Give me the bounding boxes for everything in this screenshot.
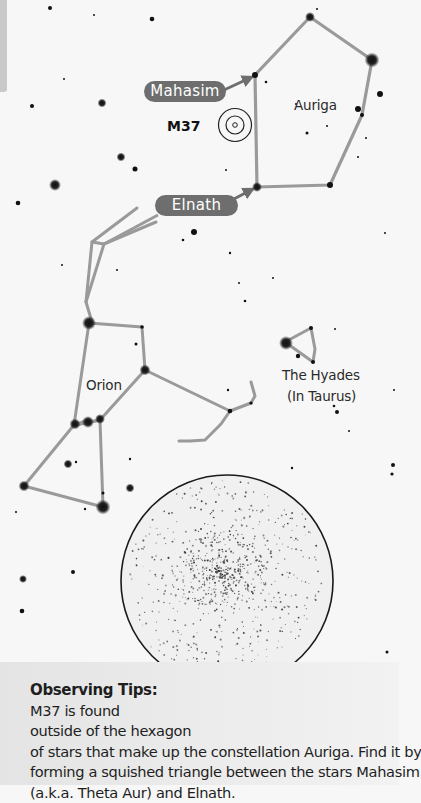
page-edge-tab bbox=[0, 0, 7, 92]
mahasim-label: Mahasim bbox=[144, 81, 226, 102]
tips-line: M37 is found bbox=[30, 701, 390, 722]
orion-label: Orion bbox=[86, 377, 122, 393]
elnath-to-orion-line bbox=[104, 215, 158, 244]
tips-line: forming a squished triangle between the … bbox=[30, 762, 390, 783]
elnath-label: Elnath bbox=[155, 195, 238, 216]
hyades-label-line1: The Hyades bbox=[282, 367, 360, 383]
eyepiece-view bbox=[121, 475, 333, 687]
m37-label: M37 bbox=[167, 118, 200, 134]
tips-title: Observing Tips: bbox=[30, 680, 390, 701]
observing-tips: Observing Tips: M37 is found outside of … bbox=[30, 680, 390, 803]
tips-line: of stars that make up the constellation … bbox=[30, 742, 390, 763]
auriga-label: Auriga bbox=[294, 97, 337, 113]
m37-target-icon bbox=[219, 109, 252, 142]
orion-lines bbox=[24, 208, 255, 507]
tips-line: (a.k.a. Theta Aur) and Elnath. bbox=[30, 783, 390, 803]
mahasim-arrow bbox=[224, 77, 252, 90]
hyades-label-line2: (In Taurus) bbox=[287, 388, 356, 404]
tips-line: outside of the hexagon bbox=[30, 721, 390, 742]
